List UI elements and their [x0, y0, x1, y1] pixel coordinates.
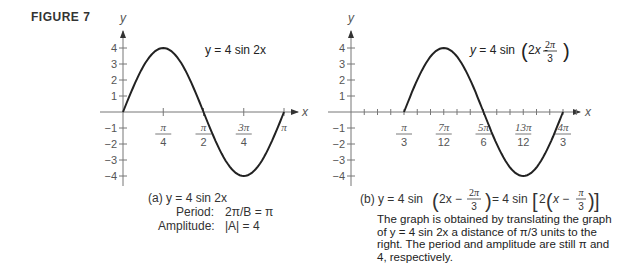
curve-label-a: y = 4 sin 2x	[205, 43, 266, 57]
panel-b-graph: y x 4321−1−2−3−4 π37π125π613π124π3 y = 4…	[328, 11, 592, 186]
period-label: Period:	[176, 205, 214, 219]
y-tick-label: 3	[339, 58, 345, 70]
svg-text:6: 6	[480, 136, 486, 148]
y-tick-label: −4	[104, 170, 117, 182]
y-tick-label: −2	[332, 138, 345, 150]
x-tick-label: 7π	[438, 121, 450, 133]
x-tick-label: π	[201, 121, 207, 133]
svg-text:3: 3	[401, 136, 407, 148]
svg-text:(b) y = 4 sin: (b) y = 4 sin	[360, 192, 423, 206]
caption-b: (b) y = 4 sin ( 2x − 2π 3 ) = 4 sin [ 2 …	[360, 187, 600, 212]
svg-text:x −: x −	[552, 192, 569, 206]
svg-text:2: 2	[200, 136, 206, 148]
y-tick-label: 2	[111, 74, 117, 86]
svg-text:): )	[485, 190, 492, 212]
svg-text:π: π	[578, 187, 584, 198]
axis-label-x: x	[301, 105, 309, 119]
amplitude-value: |A| = 4	[225, 219, 260, 233]
y-tick-label: 4	[339, 42, 345, 54]
y-tick-label: −1	[332, 122, 345, 134]
x-tick-label: π	[160, 121, 166, 133]
curve-label-b: y = 4 sin ( 2x - 2π 3 )	[469, 39, 570, 64]
svg-text:): )	[563, 40, 570, 62]
svg-text:2: 2	[539, 192, 546, 206]
x-tick-label: 13π	[515, 121, 532, 133]
y-tick-label: 4	[111, 42, 117, 54]
period-value: 2π/B = π	[225, 205, 273, 219]
x-tick-label: 3π	[237, 121, 250, 133]
axis-label-x: x	[584, 105, 592, 119]
x-tick-label: π	[281, 121, 287, 133]
y-tick-label: −4	[332, 170, 345, 182]
svg-text:12: 12	[517, 136, 529, 148]
axis-label-y: y	[347, 11, 355, 25]
svg-text:3: 3	[471, 201, 477, 212]
panel-a-graph: y x 4321−1−2−3−4 π4π23π4π y = 4 sin 2x	[100, 11, 309, 186]
y-tick-label: −3	[332, 154, 345, 166]
y-tick-label: −2	[104, 138, 117, 150]
svg-text:(: (	[521, 40, 528, 62]
y-tick-label: −3	[104, 154, 117, 166]
svg-text:4: 4	[160, 136, 166, 148]
y-tick-label: 1	[339, 90, 345, 102]
axis-label-y: y	[119, 11, 127, 25]
y-tick-label: 1	[111, 90, 117, 102]
svg-text:y = 4 sin: y = 4 sin	[469, 43, 515, 57]
svg-text:2π: 2π	[545, 39, 556, 50]
y-tick-label: 2	[339, 74, 345, 86]
svg-text:2x −: 2x −	[439, 192, 462, 206]
svg-text:3: 3	[547, 53, 553, 64]
caption-a-title: (a) y = 4 sin 2x	[148, 191, 227, 205]
y-tick-label: 3	[111, 58, 117, 70]
explanation-note: The graph is obtained by translating the…	[377, 213, 617, 263]
svg-text:2π: 2π	[469, 187, 480, 198]
x-tick-label: π	[401, 121, 407, 133]
svg-text:3: 3	[560, 136, 566, 148]
amplitude-label: Amplitude:	[158, 219, 215, 233]
svg-text:(: (	[546, 190, 553, 212]
svg-text:(: (	[432, 190, 439, 212]
svg-text:3: 3	[578, 201, 584, 212]
svg-text:= 4 sin: = 4 sin	[492, 192, 528, 206]
svg-text:4: 4	[241, 136, 247, 148]
y-tick-label: −1	[104, 122, 117, 134]
svg-text:]: ]	[594, 190, 600, 212]
svg-text:[: [	[532, 190, 538, 212]
svg-text:12: 12	[438, 136, 450, 148]
